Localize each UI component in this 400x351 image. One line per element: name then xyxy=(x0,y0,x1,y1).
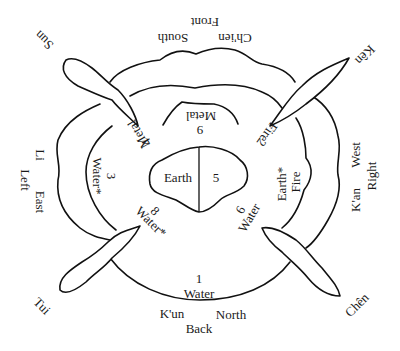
center-number: 5 xyxy=(213,170,220,185)
region-left-number: 3 xyxy=(104,173,119,180)
position-label-front: Front xyxy=(191,15,220,30)
trigram-label-kan: K'an xyxy=(348,188,363,213)
direction-label-east: East xyxy=(33,191,48,214)
trigram-label-tui: Tui xyxy=(31,294,54,317)
region-right-element-2: Fire xyxy=(288,171,303,192)
petal-bottom-left xyxy=(60,226,140,292)
trigram-label-ken: Kên xyxy=(352,42,378,68)
region-bottom-right-element: Water xyxy=(235,200,264,235)
region-left-element: Water* xyxy=(90,157,105,194)
trigram-label-kun: K'un xyxy=(160,306,185,321)
region-top-left-element: Metal xyxy=(124,117,152,151)
direction-label-north: North xyxy=(216,307,247,322)
center-element: Earth xyxy=(164,170,193,185)
trigram-diagram: Ch'ien South Front Sun Kên Tui Chên Li L… xyxy=(0,0,400,351)
direction-label-west: West xyxy=(348,142,363,168)
region-top-element: Metal xyxy=(185,109,216,124)
position-label-right: Right xyxy=(364,161,379,190)
petal-bottom-right xyxy=(262,228,340,296)
trigram-label-chen: Chên xyxy=(342,289,372,319)
region-right-element-1: Earth* xyxy=(274,167,289,202)
region-bottom-number: 1 xyxy=(196,271,203,286)
region-bottom-element: Water xyxy=(184,286,215,301)
region-top-number: 9 xyxy=(197,123,204,138)
trigram-label-sun: Sun xyxy=(31,27,56,52)
trigram-label-li: Li xyxy=(33,149,48,161)
direction-label-south: South xyxy=(157,31,188,46)
position-label-left: Left xyxy=(18,169,33,191)
outer-ring-top xyxy=(110,48,295,82)
petal-top-right xyxy=(270,58,349,126)
position-label-back: Back xyxy=(186,321,213,336)
trigram-label-chien: Ch'ien xyxy=(218,31,252,46)
